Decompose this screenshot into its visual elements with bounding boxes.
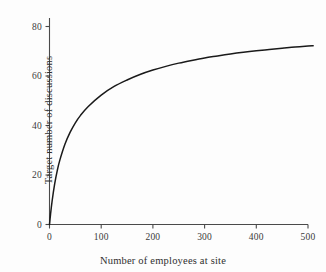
x-tick-label-500: 500 xyxy=(301,232,316,242)
chart-figure: 0 20 40 60 80 0 100 200 300 400 500 Numb… xyxy=(0,0,326,272)
y-axis-title: Target number of discussions xyxy=(43,20,54,220)
x-axis-title: Number of employees at site xyxy=(0,255,326,266)
x-tick-label-100: 100 xyxy=(94,232,109,242)
x-tick-label-200: 200 xyxy=(145,232,160,242)
y-axis-title-container: Target number of discussions xyxy=(14,0,28,240)
x-tick-label-400: 400 xyxy=(249,232,264,242)
x-axis-ticks xyxy=(50,225,309,229)
x-tick-label-300: 300 xyxy=(197,232,212,242)
data-series-line xyxy=(50,46,314,225)
x-tick-label-0: 0 xyxy=(47,232,52,242)
